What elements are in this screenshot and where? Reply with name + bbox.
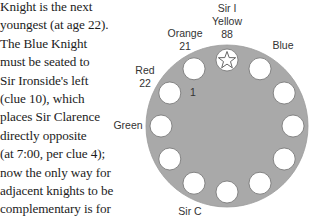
- seat-2: [273, 82, 295, 104]
- seat-6: [216, 181, 238, 203]
- seat-1: [249, 58, 271, 80]
- label-red-age: 22: [131, 77, 159, 90]
- seat-7: [183, 172, 205, 194]
- seat-9: [150, 115, 172, 137]
- label-blue: Blue: [266, 39, 300, 52]
- round-table-diagram: [0, 0, 310, 220]
- seat-3: [282, 115, 304, 137]
- label-green: Green: [110, 119, 146, 132]
- label-red: Red: [131, 64, 159, 77]
- label-orange-age: 21: [170, 40, 200, 53]
- label-bottom-name: Sir C: [173, 205, 207, 218]
- seat-5: [249, 172, 271, 194]
- seat-11: [183, 58, 205, 80]
- seat-10: [159, 82, 181, 104]
- label-top-color: Yellow: [202, 15, 252, 28]
- label-top-age: 88: [209, 28, 245, 41]
- label-seat-number: 1: [188, 86, 198, 99]
- seat-8: [159, 148, 181, 170]
- label-orange: Orange: [163, 27, 207, 40]
- label-top-name: Sir I: [209, 2, 245, 15]
- seat-4: [273, 148, 295, 170]
